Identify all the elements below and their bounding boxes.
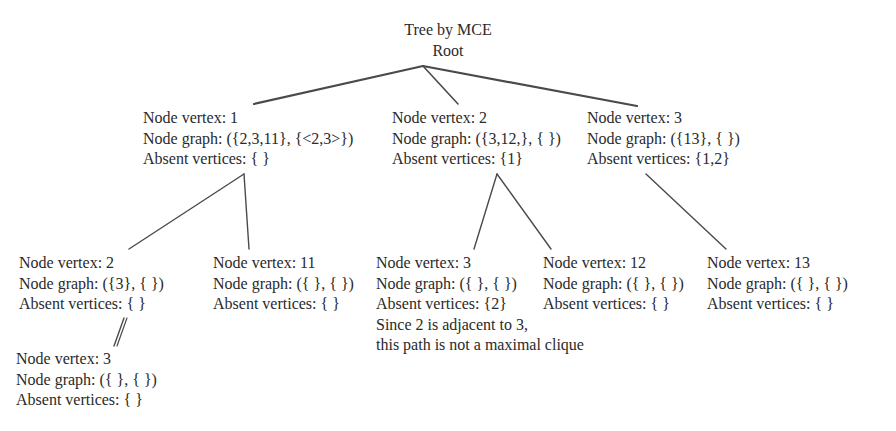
absent-vertices-label: Absent vertices: { }	[213, 294, 354, 315]
node-graph-label: Node graph: ({ }, { })	[707, 274, 848, 295]
edge-n3-n3_13	[646, 174, 726, 249]
node-vertex-label: Node vertex: 11	[213, 253, 354, 274]
node-graph-label: Node graph: ({2,3,11}, {<2,3>})	[143, 129, 353, 150]
node-vertex-label: Node vertex: 2	[19, 253, 164, 274]
root-label: Root	[0, 40, 896, 61]
absent-vertices-label: Absent vertices: {1}	[392, 149, 561, 170]
node-vertex-label: Node vertex: 1	[143, 108, 353, 129]
node-graph-label: Node graph: ({13}, { })	[587, 129, 740, 150]
tree-node-vertex-3-under-1-2: Node vertex: 3 Node graph: ({ }, { }) Ab…	[16, 349, 157, 411]
node-vertex-label: Node vertex: 3	[16, 349, 157, 370]
absent-vertices-label: Absent vertices: {1,2}	[587, 149, 740, 170]
node-graph-label: Node graph: ({3,12,}, { })	[392, 129, 561, 150]
mce-tree-diagram: Tree by MCE Root Node vertex: 1 Node gra…	[0, 0, 896, 431]
edge-root-n1	[254, 66, 423, 104]
absent-vertices-label: Absent vertices: { }	[707, 294, 848, 315]
edge-n1-n1_11	[244, 174, 249, 249]
non-maximal-note-line-2: this path is not a maximal clique	[376, 335, 584, 356]
node-graph-label: Node graph: ({3}, { })	[19, 274, 164, 295]
node-graph-label: Node graph: ({ }, { })	[213, 274, 354, 295]
diagram-title: Tree by MCE	[0, 19, 896, 40]
tree-node-vertex-3: Node vertex: 3 Node graph: ({13}, { }) A…	[587, 108, 740, 170]
absent-vertices-label: Absent vertices: { }	[19, 294, 164, 315]
node-graph-label: Node graph: ({ }, { })	[543, 274, 684, 295]
tree-node-vertex-11: Node vertex: 11 Node graph: ({ }, { }) A…	[213, 253, 354, 315]
absent-vertices-label: Absent vertices: { }	[143, 149, 353, 170]
tree-node-vertex-2: Node vertex: 2 Node graph: ({3,12,}, { }…	[392, 108, 561, 170]
node-vertex-label: Node vertex: 3	[587, 108, 740, 129]
non-maximal-note-line-1: Since 2 is adjacent to 3,	[376, 315, 584, 336]
node-vertex-label: Node vertex: 2	[392, 108, 561, 129]
tree-node-vertex-13: Node vertex: 13 Node graph: ({ }, { }) A…	[707, 253, 848, 315]
absent-vertices-label: Absent vertices: { }	[543, 294, 684, 315]
node-graph-label: Node graph: ({ }, { })	[16, 370, 157, 391]
edge-n1-n1_2	[129, 174, 244, 249]
edge-n2-n2_12	[497, 174, 551, 249]
tree-node-vertex-2-under-1: Node vertex: 2 Node graph: ({3}, { }) Ab…	[19, 253, 164, 315]
node-vertex-label: Node vertex: 12	[543, 253, 684, 274]
edge-n2-n2_3	[474, 174, 497, 249]
node-vertex-label: Node vertex: 13	[707, 253, 848, 274]
tree-node-vertex-12: Node vertex: 12 Node graph: ({ }, { }) A…	[543, 253, 684, 315]
absent-vertices-label: Absent vertices: { }	[16, 390, 157, 411]
tree-node-vertex-1: Node vertex: 1 Node graph: ({2,3,11}, {<…	[143, 108, 353, 170]
